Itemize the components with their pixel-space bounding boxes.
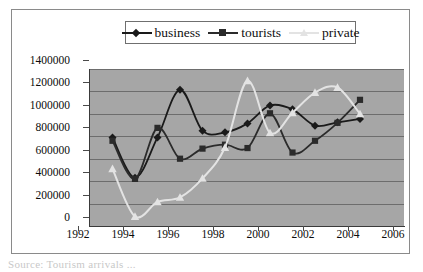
data-point-private-1993 <box>108 165 116 173</box>
y-axis-tick <box>83 60 89 61</box>
x-axis-tick <box>78 226 79 231</box>
y-axis-tick-label: 1200000 <box>12 77 70 87</box>
data-point-tourists-1999 <box>244 145 250 151</box>
x-axis-line <box>89 226 405 227</box>
data-point-tourists-2002 <box>312 138 318 144</box>
plot-area <box>89 69 404 226</box>
data-point-tourists-1994 <box>132 176 138 182</box>
data-point-tourists-1997 <box>199 146 205 152</box>
x-axis-tick <box>123 226 124 231</box>
legend-label: business <box>155 26 201 40</box>
data-point-private-2002 <box>311 88 319 96</box>
chart-legend: businesstouristsprivate <box>125 21 356 44</box>
data-point-tourists-2004 <box>357 97 363 103</box>
y-axis-tick-label: 1400000 <box>12 55 70 65</box>
legend-key-triangle-icon <box>289 27 319 38</box>
y-axis-tick-label: 1000000 <box>12 100 70 110</box>
x-axis-tick <box>213 226 214 231</box>
data-point-business-1998 <box>221 128 229 136</box>
data-point-tourists-2001 <box>289 149 295 155</box>
data-point-business-2002 <box>311 122 319 130</box>
x-axis-tick <box>303 226 304 231</box>
data-point-tourists-1995 <box>154 125 160 131</box>
legend-label: tourists <box>241 26 281 40</box>
legend-entry-private[interactable]: private <box>285 26 363 40</box>
y-axis-tick-label: 600000 <box>12 145 70 155</box>
legend-key-square-icon <box>208 27 238 38</box>
y-axis-tick-label: 800000 <box>12 122 70 132</box>
legend-entry-tourists[interactable]: tourists <box>204 26 285 40</box>
chart-figure-frame: businesstouristsprivate 0200000400000600… <box>11 9 410 254</box>
x-axis-tick <box>168 226 169 231</box>
data-point-private-1996 <box>176 193 184 201</box>
data-point-business-1995 <box>154 133 162 141</box>
y-axis-tick-label: 200000 <box>12 190 70 200</box>
data-point-tourists-1993 <box>109 138 115 144</box>
data-point-private-1999 <box>243 77 251 85</box>
data-point-tourists-2000 <box>267 110 273 116</box>
legend-label: private <box>322 26 359 40</box>
legend-entry-business[interactable]: business <box>118 26 205 40</box>
series-line-business <box>113 90 361 178</box>
y-axis-tick-label: 400000 <box>12 167 70 177</box>
x-axis-tick <box>393 226 394 231</box>
y-axis-tick-label: 0 <box>12 212 70 222</box>
data-point-tourists-1996 <box>177 156 183 162</box>
data-point-business-2000 <box>266 101 274 109</box>
x-axis-tick <box>348 226 349 231</box>
figure-caption-partial: Source: Tourism arrivals ... <box>8 258 308 272</box>
legend-key-diamond-icon <box>122 27 152 38</box>
data-point-tourists-2003 <box>334 120 340 126</box>
x-axis-tick <box>258 226 259 231</box>
series-layer <box>90 69 404 226</box>
